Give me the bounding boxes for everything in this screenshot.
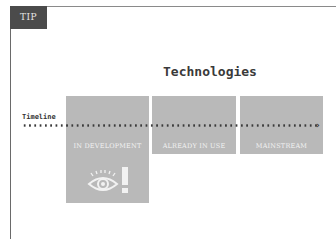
slide-title: Technologies bbox=[120, 64, 300, 79]
eye-icon bbox=[86, 168, 120, 194]
stage-label: ALREADY IN USE bbox=[152, 142, 236, 150]
frame-left-border bbox=[10, 6, 11, 239]
stage-in-development: IN DEVELOPMENT bbox=[66, 96, 149, 203]
timeline-label: Timeline bbox=[22, 113, 56, 121]
exclamation-icon bbox=[122, 167, 128, 193]
arrow-right-icon: › bbox=[316, 120, 320, 130]
timeline-dotted-line bbox=[22, 124, 318, 127]
tip-badge: TIP bbox=[10, 6, 47, 29]
stage-label: MAINSTREAM bbox=[240, 142, 323, 150]
frame-top-border bbox=[10, 6, 336, 7]
stage-label: IN DEVELOPMENT bbox=[66, 142, 149, 150]
